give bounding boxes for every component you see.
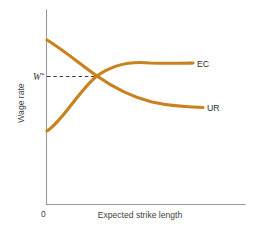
chart-container: EC UR W* 0 Expected strike length Wage r… [0,0,255,232]
y-axis-title: Wage rate [16,83,26,123]
chart-canvas: EC UR W* 0 Expected strike length Wage r… [0,0,255,232]
x-axis-title: Expected strike length [98,210,183,220]
equilibrium-wage-label: W* [33,71,45,82]
equilibrium-wage-star: * [41,71,45,79]
series-label-ec: EC [197,59,210,69]
series-curve-ec [47,63,193,131]
series-label-ur: UR [207,103,220,113]
series-curve-ur [47,40,203,108]
origin-label: 0 [41,209,46,219]
